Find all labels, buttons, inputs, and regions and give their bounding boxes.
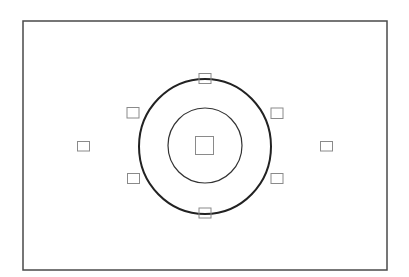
background [0, 0, 409, 277]
viewfinder-diagram [0, 0, 409, 277]
